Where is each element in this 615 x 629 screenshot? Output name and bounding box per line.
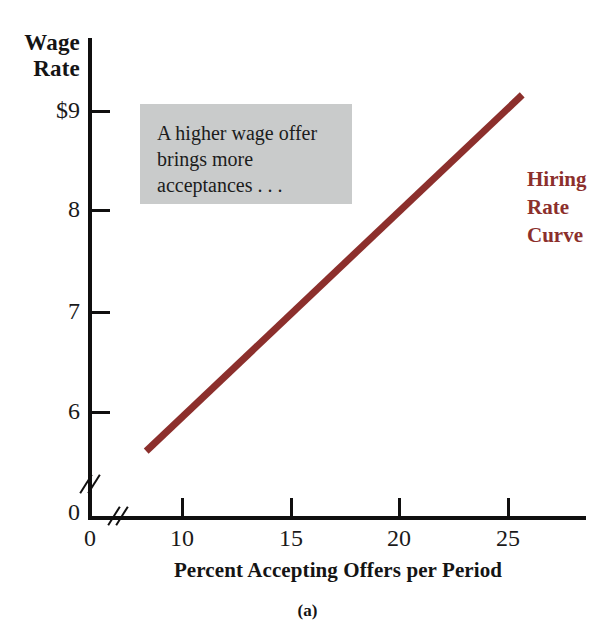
y-axis-title: Wage Rate: [0, 30, 80, 82]
annotation-line-1: A higher wage offer: [157, 120, 352, 146]
y-tick-8: [92, 209, 110, 212]
curve-label-line-2: Rate: [527, 193, 587, 221]
curve-label-line-3: Curve: [527, 221, 587, 249]
y-tick-label-9: $9: [10, 98, 80, 122]
y-tick-label-7: 7: [10, 299, 80, 323]
y-tick-9: [92, 110, 110, 113]
y-origin-label: 0: [10, 500, 80, 524]
x-tick-25: [507, 498, 510, 516]
x-tick-20: [398, 498, 401, 516]
annotation-line-2: brings more: [157, 146, 352, 172]
y-tick-6: [92, 411, 110, 414]
panel-caption: (a): [0, 601, 615, 621]
x-tick-label-20: 20: [369, 524, 429, 552]
x-tick-15: [290, 498, 293, 516]
annotation-callout-box: A higher wage offer brings more acceptan…: [140, 104, 352, 204]
y-tick-label-6: 6: [10, 399, 80, 423]
x-axis-line: [88, 516, 586, 520]
x-axis-title: Percent Accepting Offers per Period: [88, 558, 588, 583]
x-origin-label: 0: [60, 524, 120, 552]
y-axis-break-icon: [78, 472, 104, 498]
y-tick-label-8-wrap: 8: [0, 197, 80, 221]
x-tick-10: [181, 498, 184, 516]
hiring-rate-chart-figure: Wage Rate $9 8 7 6 0 0 10 15 20 25 A hig…: [0, 0, 615, 629]
hiring-rate-curve-label: Hiring Rate Curve: [527, 165, 587, 249]
y-origin-label-wrap: 0: [0, 500, 80, 524]
x-tick-label-25: 25: [478, 524, 538, 552]
x-tick-label-15: 15: [261, 524, 321, 552]
y-tick-label-6-wrap: 6: [0, 399, 80, 423]
y-tick-label-9-wrap: $9: [0, 98, 80, 122]
x-tick-label-10: 10: [152, 524, 212, 552]
y-tick-label-7-wrap: 7: [0, 299, 80, 323]
curve-label-line-1: Hiring: [527, 165, 587, 193]
y-tick-7: [92, 311, 110, 314]
y-axis-title-line-1: Wage: [0, 30, 80, 56]
y-tick-label-8: 8: [10, 197, 80, 221]
y-axis-title-line-2: Rate: [0, 56, 80, 82]
annotation-line-3: acceptances . . .: [157, 172, 352, 198]
